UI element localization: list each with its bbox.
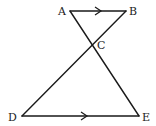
point-label-d: D <box>8 111 17 124</box>
geometry-diagram: A B C D E <box>0 0 156 126</box>
segment-ae <box>70 11 139 116</box>
segment-bd <box>22 11 126 116</box>
point-label-e: E <box>142 111 150 124</box>
point-label-a: A <box>57 5 67 18</box>
point-label-c: C <box>97 39 105 52</box>
point-label-b: B <box>129 5 137 18</box>
